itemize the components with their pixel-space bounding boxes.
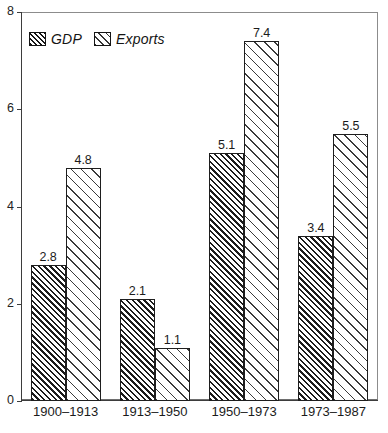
bar-value-label: 5.1 (218, 138, 235, 152)
bar-value-label: 3.4 (307, 221, 324, 235)
y-tick-label-8: 8 (0, 4, 14, 18)
bar-exports-0: 4.8 (66, 168, 101, 401)
x-category-label-2: 1950–1973 (200, 404, 289, 419)
y-tick-label-2: 2 (0, 296, 14, 310)
x-category-label-0: 1900–1913 (21, 404, 110, 419)
bar-value-label: 5.5 (342, 119, 359, 133)
x-axis-category-labels: 1900–19131913–19501950–19731973–1987 (21, 404, 378, 428)
bars-layer: 2.84.82.11.15.17.43.45.5 (21, 12, 378, 401)
legend-label-gdp: GDP (51, 31, 82, 47)
chart-legend: GDP Exports (29, 31, 165, 47)
bar-value-label: 1.1 (164, 333, 181, 347)
bar-exports-1: 1.1 (155, 348, 190, 401)
bar-gdp-3: 3.4 (298, 236, 333, 401)
bar-exports-2: 7.4 (244, 41, 279, 401)
bar-gdp-2: 5.1 (209, 153, 244, 401)
bar-chart: 02468 2.84.82.11.15.17.43.45.5 GDP Expor… (0, 0, 388, 433)
bar-exports-3: 5.5 (333, 134, 368, 401)
bar-gdp-0: 2.8 (31, 265, 66, 401)
y-tick-label-0: 0 (0, 393, 14, 407)
legend-entry-exports: Exports (94, 31, 165, 47)
x-category-label-3: 1973–1987 (289, 404, 378, 419)
y-tick-label-6: 6 (0, 101, 14, 115)
bar-value-label: 2.8 (39, 250, 56, 264)
bar-value-label: 4.8 (74, 153, 91, 167)
legend-swatch-gdp-icon (29, 32, 46, 46)
x-category-label-1: 1913–1950 (110, 404, 199, 419)
legend-entry-gdp: GDP (29, 31, 82, 47)
bar-value-label: 2.1 (129, 284, 146, 298)
bar-value-label: 7.4 (253, 26, 270, 40)
legend-swatch-exports-icon (94, 32, 111, 46)
y-tick-label-4: 4 (0, 199, 14, 213)
y-tick-mark-0 (17, 401, 22, 402)
bar-gdp-1: 2.1 (120, 299, 155, 401)
legend-label-exports: Exports (116, 31, 165, 47)
